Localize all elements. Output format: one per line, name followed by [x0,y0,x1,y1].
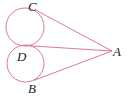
tangent-line-lower-ba [34,51,113,81]
vertex-label-a: A [113,45,121,58]
upper-circle [6,8,44,46]
vertex-label-b: B [28,82,36,95]
geometry-figure: C D B A [0,0,127,96]
figure-canvas [0,0,127,96]
vertex-label-c: C [28,0,37,13]
vertex-label-d: D [17,50,26,63]
tangent-line-upper-ca [37,11,113,52]
